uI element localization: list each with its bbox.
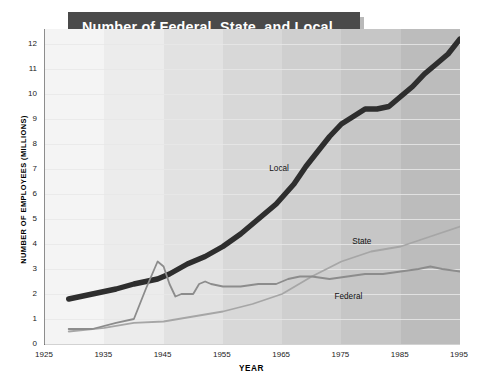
series-line-federal (69, 262, 460, 330)
series-canvas (45, 29, 460, 344)
x-tick-label: 1925 (24, 351, 64, 359)
y-tick-label: 8 (11, 140, 37, 148)
x-tick-label: 1945 (143, 351, 183, 359)
y-tick-label: 7 (11, 165, 37, 173)
x-tick-label: 1965 (261, 351, 301, 359)
x-axis-title: YEAR (44, 364, 459, 373)
y-tick-label: 4 (11, 240, 37, 248)
y-tick-label: 6 (11, 190, 37, 198)
x-tick-label: 1975 (320, 351, 360, 359)
series-line-local (69, 39, 460, 299)
x-tick-label: 1995 (439, 351, 479, 359)
plot-area (44, 29, 460, 345)
series-label-local: Local (269, 164, 289, 173)
y-tick-label: 0 (11, 340, 37, 348)
y-tick-label: 3 (11, 265, 37, 273)
y-tick-label: 11 (11, 65, 37, 73)
gridline (45, 344, 460, 345)
chart-figure: Number of Federal, State, and Local Gove… (0, 0, 481, 380)
y-tick-label: 9 (11, 115, 37, 123)
y-tick-label: 12 (11, 40, 37, 48)
series-label-federal: Federal (335, 292, 363, 301)
series-line-state (69, 227, 460, 332)
y-tick-label: 2 (11, 290, 37, 298)
y-tick-label: 10 (11, 90, 37, 98)
x-tick-label: 1985 (380, 351, 420, 359)
x-tick-label: 1955 (202, 351, 242, 359)
series-label-state: State (352, 237, 371, 246)
x-tick-label: 1935 (83, 351, 123, 359)
y-tick-label: 1 (11, 315, 37, 323)
y-tick-label: 5 (11, 215, 37, 223)
